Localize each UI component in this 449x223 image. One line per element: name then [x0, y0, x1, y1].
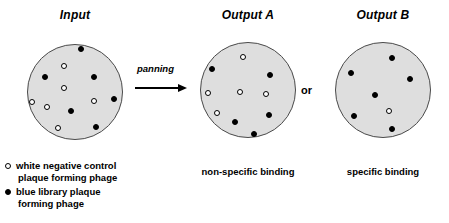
legend-label-blue: blue library plaque forming phage	[5, 186, 155, 209]
blue-library-plaque	[232, 119, 239, 126]
white-control-plaque	[214, 110, 221, 117]
caption-output-a: non-specific binding	[188, 166, 308, 177]
or-label: or	[301, 84, 312, 96]
panning-arrow	[135, 84, 187, 93]
arrow-shaft	[135, 87, 179, 89]
white-control-plaque	[61, 85, 68, 92]
arrow-head-icon	[178, 84, 187, 92]
legend-white-line2: plaque forming phage	[16, 172, 155, 184]
white-control-plaque	[55, 125, 62, 132]
blue-library-plaque	[68, 108, 75, 115]
panning-label: panning	[137, 63, 174, 74]
blue-library-plaque	[42, 74, 49, 81]
blue-library-plaque	[266, 112, 273, 119]
white-control-plaque	[205, 90, 212, 97]
white-control-plaque	[237, 89, 244, 96]
legend-label-white: white negative control plaque forming ph…	[5, 160, 155, 183]
white-control-plaque	[44, 104, 51, 111]
panel-title-output-a: Output A	[188, 8, 308, 22]
legend-blue-line1: blue library plaque	[16, 186, 100, 197]
blue-library-plaque	[251, 131, 258, 138]
caption-output-b: specific binding	[323, 166, 443, 177]
legend-white-line1: white negative control	[16, 160, 116, 171]
white-control-plaque	[386, 108, 393, 115]
panel-title-output-b: Output B	[323, 8, 443, 22]
white-control-plaque	[240, 54, 247, 61]
white-control-plaque	[263, 91, 270, 98]
blue-library-plaque	[91, 74, 98, 81]
blue-library-plaque	[372, 92, 379, 99]
blue-library-plaque	[93, 124, 100, 131]
white-control-plaque	[29, 99, 36, 106]
legend-item-white-control: white negative control plaque forming ph…	[5, 160, 155, 183]
blue-library-plaque	[351, 113, 358, 120]
blue-plaque-icon	[5, 189, 11, 195]
petri-dish-input	[27, 44, 123, 140]
white-control-plaque	[61, 63, 68, 70]
blue-library-plaque	[407, 76, 414, 83]
blue-library-plaque	[111, 96, 118, 103]
petri-dish-output-b	[335, 42, 431, 138]
blue-library-plaque	[78, 46, 85, 53]
panel-title-input: Input	[15, 8, 135, 22]
legend-item-blue-library: blue library plaque forming phage	[5, 186, 155, 209]
petri-dish-output-a	[200, 42, 296, 138]
blue-library-plaque	[389, 55, 396, 62]
legend: white negative control plaque forming ph…	[5, 160, 155, 212]
figure-canvas: Input panning Output A non-specific bind…	[0, 0, 449, 223]
white-control-plaque	[91, 98, 98, 105]
legend-blue-line2: forming phage	[16, 198, 155, 210]
blue-library-plaque	[209, 66, 216, 73]
blue-library-plaque	[267, 72, 274, 79]
blue-library-plaque	[389, 126, 396, 133]
white-plaque-icon	[5, 163, 11, 169]
blue-library-plaque	[348, 70, 355, 77]
